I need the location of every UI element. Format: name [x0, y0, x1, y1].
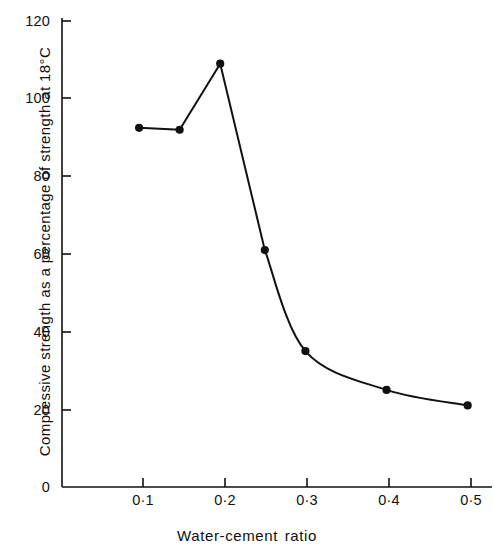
- data-series-markers: [135, 60, 472, 410]
- y-tick-label-0: 0: [6, 479, 50, 495]
- x-axis-ticks: [143, 478, 471, 487]
- y-tick-label-120: 120: [6, 13, 50, 29]
- axes: [62, 18, 492, 487]
- x-tick-label-0.4: 0·4: [363, 492, 415, 508]
- data-point: [135, 124, 143, 132]
- x-tick-label-0.5: 0·5: [445, 492, 494, 508]
- x-axis-title: Water-cement ratio: [0, 527, 494, 544]
- data-point: [176, 126, 184, 134]
- data-point: [464, 401, 472, 409]
- y-axis-ticks: [62, 21, 71, 410]
- data-point: [261, 246, 269, 254]
- x-tick-label-0.3: 0·3: [281, 492, 333, 508]
- data-point: [301, 347, 309, 355]
- chart-container: 120 100 80 60 40 20 0 0·1 0·2 0·3 0·4 0·…: [0, 0, 494, 558]
- x-tick-label-0.2: 0·2: [199, 492, 251, 508]
- data-point: [216, 60, 224, 68]
- data-point: [382, 386, 390, 394]
- x-tick-label-0.1: 0·1: [117, 492, 169, 508]
- y-axis-title: Compressive strength as a percentage of …: [36, 32, 53, 472]
- plot-area: [0, 0, 494, 558]
